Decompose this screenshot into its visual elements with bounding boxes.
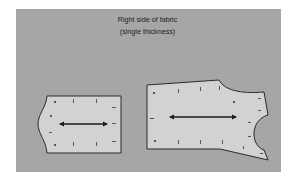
large-pattern-piece: [147, 80, 268, 160]
small-pattern-piece: [38, 96, 121, 153]
pattern-diagram: [0, 0, 295, 182]
